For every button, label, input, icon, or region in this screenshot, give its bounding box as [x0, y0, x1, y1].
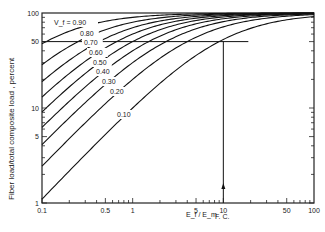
fiber-load-chart: V_f = 0.900.800.700.600.500.400.300.200.…	[0, 0, 325, 232]
curve-label: 0.80	[80, 30, 94, 37]
x-axis-label: E_f / E_m	[186, 211, 217, 219]
x-tick-label: 100	[308, 207, 320, 214]
curve-label: 0.30	[102, 78, 116, 85]
y-tick-label: 10	[31, 105, 39, 112]
x-tick-label: 1	[131, 207, 135, 214]
x-tick-label: 0.5	[101, 207, 111, 214]
axes: 0.10.5151050100151050100	[27, 10, 320, 215]
fc-annotation: F. C.	[215, 213, 229, 220]
x-tick-label: 0.1	[37, 207, 47, 214]
y-tick-label: 100	[27, 10, 39, 17]
curve-label: V_f = 0.90	[54, 19, 86, 27]
x-tick-label: 50	[283, 207, 291, 214]
curve-label: 0.40	[96, 68, 110, 75]
y-tick-label: 5	[35, 133, 39, 140]
curve-label: 0.10	[117, 111, 131, 118]
y-axis-label: Fiber load/total composite load , percen…	[7, 57, 16, 200]
y-tick-label: 50	[31, 38, 39, 45]
curve-label: 0.50	[93, 59, 107, 66]
curve-label: 0.20	[110, 88, 124, 95]
curve-label: 0.60	[89, 49, 103, 56]
curve-label: 0.70	[84, 39, 98, 46]
y-tick-label: 1	[35, 200, 39, 207]
